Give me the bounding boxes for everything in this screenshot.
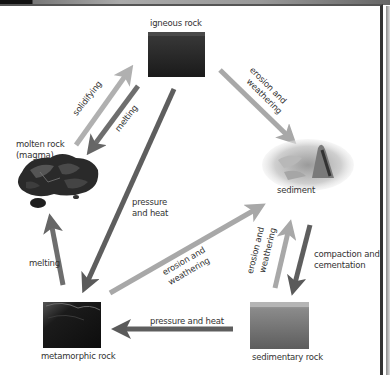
arrow-compaction — [294, 225, 310, 287]
metamorphic-rock-label: metamorphic rock — [41, 351, 115, 362]
pressure-heat-sedimentary-label: pressure and heat — [150, 316, 224, 327]
igneous-rock-image — [148, 32, 205, 77]
metamorphic-rock-image — [43, 302, 101, 348]
arrow-erosion-sedimentary — [275, 228, 289, 288]
compaction-label-line2: cementation — [314, 260, 365, 271]
sedimentary-rock-label: sedimentary rock — [252, 352, 323, 363]
magma-image — [18, 154, 98, 208]
compaction-label-line1: compaction and — [314, 249, 380, 260]
sedimentary-rock-image — [250, 302, 309, 349]
igneous-rock-label: igneous rock — [150, 18, 202, 29]
melting-metamorphic-label: melting — [29, 258, 60, 269]
pressure-heat-igneous-label-line1: pressure — [132, 197, 167, 208]
sediment-label: sediment — [277, 185, 315, 196]
pressure-heat-igneous-label-line2: and heat — [132, 208, 168, 219]
magma-label-line2: (magma) — [16, 150, 54, 161]
sediment-image — [262, 139, 354, 191]
magma-label-line1: molten rock — [16, 139, 64, 150]
arrow-melting-metamorphic — [51, 222, 63, 285]
